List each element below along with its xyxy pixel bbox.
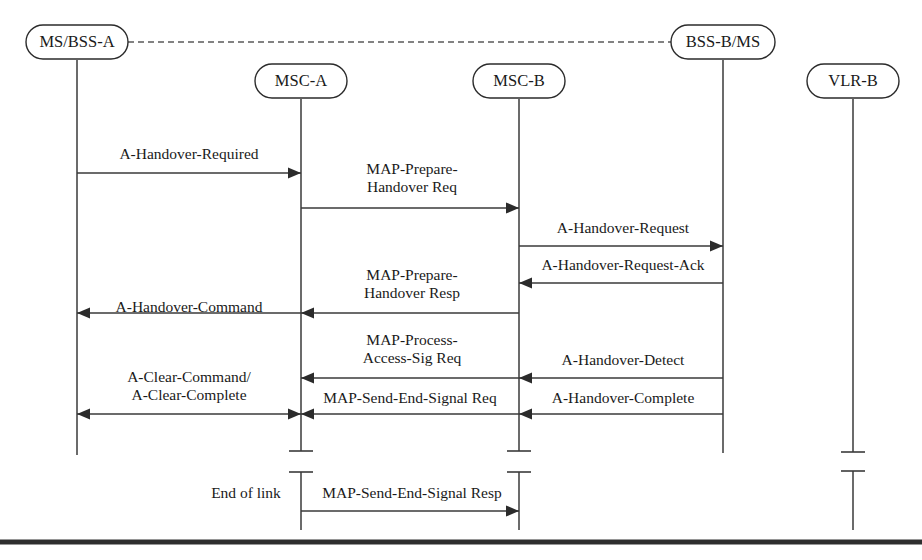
message-m10[interactable]: MAP-Send-End-Signal Req: [301, 389, 519, 420]
message-label-m9-line2: A-Clear-Complete: [131, 386, 246, 403]
arrowhead-m9-from: [288, 408, 301, 419]
lifeline-break-gap-msc_a: [297, 451, 305, 472]
arrowhead-m4: [519, 277, 532, 288]
message-label-m2: MAP-Prepare-: [366, 160, 457, 177]
actor-bss_b_ms[interactable]: BSS-B/MS: [671, 25, 775, 59]
arrowhead-m9-to: [77, 408, 90, 419]
actor-label-msc_a: MSC-A: [275, 71, 327, 90]
message-m8[interactable]: A-Handover-Detect: [519, 351, 723, 384]
actor-label-msc_b: MSC-B: [493, 71, 544, 90]
message-m3[interactable]: A-Handover-Request: [519, 219, 723, 252]
lifeline-break-gap-vlr_b: [849, 452, 857, 471]
message-label-m11: A-Handover-Complete: [552, 389, 695, 406]
sequence-diagram-svg: A-Handover-RequiredMAP-Prepare-Handover …: [0, 0, 922, 560]
arrowhead-m1: [288, 167, 301, 178]
message-m5[interactable]: MAP-Prepare-Handover Resp: [301, 266, 519, 319]
message-m7[interactable]: MAP-Process-Access-Sig Req: [301, 331, 519, 384]
arrowhead-m12: [506, 505, 519, 516]
message-label-m12: MAP-Send-End-Signal Resp: [322, 484, 502, 501]
message-label-m7-line2: Access-Sig Req: [363, 349, 462, 366]
message-m2[interactable]: MAP-Prepare-Handover Req: [301, 160, 519, 214]
message-label-m4: A-Handover-Request-Ack: [541, 256, 704, 273]
lifelines-layer: [77, 60, 853, 530]
message-m12[interactable]: MAP-Send-End-Signal Resp: [301, 484, 519, 517]
message-label-m7: MAP-Process-: [366, 331, 457, 348]
message-label-m8: A-Handover-Detect: [562, 351, 685, 368]
message-m1[interactable]: A-Handover-Required: [77, 145, 301, 179]
actor-vlr_b[interactable]: VLR-B: [807, 64, 899, 98]
arrowhead-m11: [519, 408, 532, 419]
messages-layer: A-Handover-RequiredMAP-Prepare-Handover …: [77, 145, 723, 517]
actor-label-bss_b_ms: BSS-B/MS: [686, 32, 760, 51]
arrowhead-m7: [301, 372, 314, 383]
message-label-m1: A-Handover-Required: [119, 145, 258, 162]
arrowhead-m2: [506, 202, 519, 213]
message-label-m9: A-Clear-Command/: [127, 368, 251, 385]
message-label-m5-line2: Handover Resp: [364, 284, 460, 301]
note-n1: End of link: [211, 484, 281, 501]
arrowhead-m6: [77, 307, 90, 318]
arrowhead-m8: [519, 372, 532, 383]
actor-ms_bss_a[interactable]: MS/BSS-A: [26, 25, 128, 59]
lifeline-break-gap-msc_b: [515, 451, 523, 472]
sequence-diagram-canvas: A-Handover-RequiredMAP-Prepare-Handover …: [0, 0, 922, 560]
message-label-m6: A-Handover-Command: [116, 298, 263, 315]
message-m11[interactable]: A-Handover-Complete: [519, 389, 723, 420]
message-label-m10: MAP-Send-End-Signal Req: [323, 389, 497, 406]
arrowhead-m5: [301, 307, 314, 318]
message-m6[interactable]: A-Handover-Command: [77, 298, 301, 319]
arrowhead-m10: [301, 408, 314, 419]
actor-label-vlr_b: VLR-B: [828, 71, 878, 90]
actor-label-ms_bss_a: MS/BSS-A: [39, 32, 114, 51]
message-m9[interactable]: A-Clear-Command/A-Clear-Complete: [77, 368, 301, 420]
actor-boxes-layer: MS/BSS-AMSC-AMSC-BBSS-B/MSVLR-B: [26, 25, 899, 98]
actor-msc_b[interactable]: MSC-B: [473, 64, 565, 98]
message-label-m2-line2: Handover Req: [367, 178, 457, 195]
notes-layer: End of link: [211, 484, 281, 501]
arrowhead-m3: [710, 240, 723, 251]
actor-msc_a[interactable]: MSC-A: [255, 64, 347, 98]
message-m4[interactable]: A-Handover-Request-Ack: [519, 256, 723, 289]
message-label-m5: MAP-Prepare-: [366, 266, 457, 283]
message-label-m3: A-Handover-Request: [557, 219, 690, 236]
lifeline-breaks-layer: [289, 451, 865, 472]
